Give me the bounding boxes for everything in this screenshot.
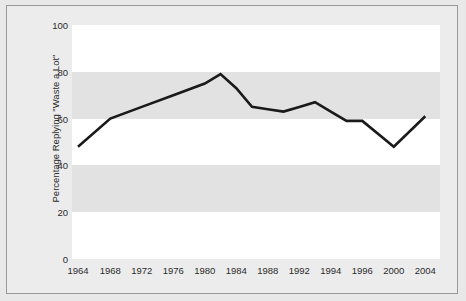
data-line-svg: [72, 25, 440, 259]
y-axis-tick-labels: 100 80 60 40 20 0: [24, 25, 68, 259]
x-axis-tick-labels: 1964 1968 1972 1976 1980 1984 1988 1992 …: [72, 266, 440, 280]
chart-figure: Percentage Replying "Waste a Lot" 100 80…: [0, 0, 466, 301]
y-tick-label: 60: [28, 115, 68, 125]
y-tick-label: 100: [28, 21, 68, 31]
series-line-waste-a-lot: [78, 74, 425, 147]
x-tick-label: 2004: [405, 266, 445, 276]
y-tick-label: 20: [28, 208, 68, 218]
y-tick-label: 80: [28, 68, 68, 78]
plot-area: [72, 25, 440, 259]
y-tick-label: 0: [28, 255, 68, 265]
y-tick-label: 40: [28, 161, 68, 171]
